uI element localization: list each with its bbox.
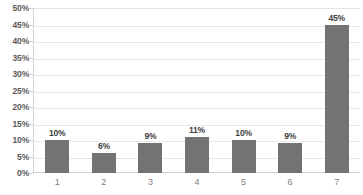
bar[interactable]: [278, 143, 302, 173]
bar-value-label: 9%: [144, 131, 156, 141]
y-tick-label: 10%: [0, 136, 29, 145]
y-tick-mark: [29, 140, 33, 141]
y-tick-label: 25%: [0, 86, 29, 95]
y-tick-mark: [29, 124, 33, 125]
y-tick-mark: [29, 8, 33, 9]
x-tick-label: 6: [267, 176, 314, 188]
y-tick-mark: [29, 157, 33, 158]
bar-slot: 9%: [127, 8, 174, 173]
y-tick-mark: [29, 25, 33, 26]
bar[interactable]: [45, 140, 69, 173]
bar[interactable]: [92, 153, 116, 173]
x-tick-label: 7: [313, 176, 360, 188]
x-tick-label: 5: [220, 176, 267, 188]
bar-slot: 10%: [34, 8, 81, 173]
bar-slot: 10%: [220, 8, 267, 173]
bar-value-label: 11%: [189, 125, 205, 135]
x-tick-label: 3: [127, 176, 174, 188]
y-tick-label: 45%: [0, 20, 29, 29]
y-tick-mark: [29, 173, 33, 174]
y-tick-label: 20%: [0, 103, 29, 112]
bar[interactable]: [138, 143, 162, 173]
y-tick-label: 15%: [0, 119, 29, 128]
y-tick-label: 5%: [0, 152, 29, 161]
y-axis: 50%45%40%35%30%25%20%15%10%5%0%: [0, 0, 29, 195]
y-tick-label: 40%: [0, 37, 29, 46]
y-tick-mark: [29, 91, 33, 92]
y-tick-mark: [29, 107, 33, 108]
bar-chart: 50%45%40%35%30%25%20%15%10%5%0% 10%6%9%1…: [0, 0, 363, 195]
bar-slot: 9%: [267, 8, 314, 173]
bar-value-label: 10%: [235, 128, 251, 138]
y-tick-mark: [29, 58, 33, 59]
y-tick-label: 35%: [0, 53, 29, 62]
bars-layer: 10%6%9%11%10%9%45%: [34, 8, 360, 173]
y-tick-mark: [29, 41, 33, 42]
x-axis: 1234567: [34, 176, 360, 192]
bar-value-label: 9%: [284, 131, 296, 141]
bar[interactable]: [185, 137, 209, 173]
x-tick-label: 4: [174, 176, 221, 188]
x-tick-label: 1: [34, 176, 81, 188]
bar-slot: 6%: [81, 8, 128, 173]
y-tick-label: 0%: [0, 169, 29, 178]
bar-value-label: 10%: [49, 128, 65, 138]
bar-slot: 45%: [313, 8, 360, 173]
y-tick-mark: [29, 74, 33, 75]
x-tick-label: 2: [81, 176, 128, 188]
y-tick-label: 50%: [0, 4, 29, 13]
bar[interactable]: [325, 25, 349, 174]
y-tick-label: 30%: [0, 70, 29, 79]
bar-slot: 11%: [174, 8, 221, 173]
bar[interactable]: [232, 140, 256, 173]
bar-value-label: 6%: [98, 141, 110, 151]
bar-value-label: 45%: [328, 13, 344, 23]
